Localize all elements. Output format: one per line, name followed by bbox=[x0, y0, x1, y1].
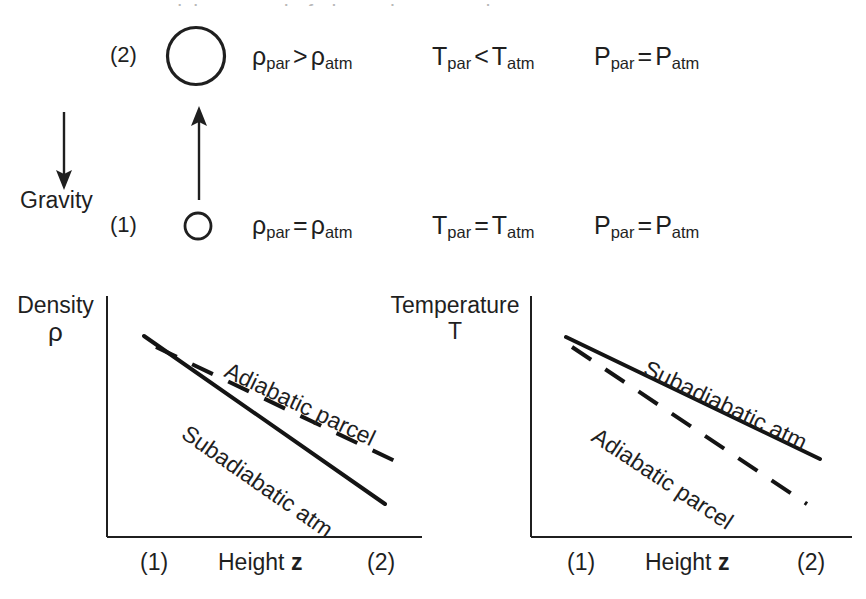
eq-operator: = bbox=[635, 42, 656, 70]
xlabel-symbol: z bbox=[291, 549, 303, 575]
ylabel-line-1: Temperature bbox=[385, 292, 525, 318]
xlabel-text: Height bbox=[218, 549, 284, 575]
small-circle-icon bbox=[181, 209, 215, 243]
state-2-label: (2) bbox=[110, 42, 137, 68]
density-chart-xtick-1: (1) bbox=[140, 549, 168, 576]
eq-operator: = bbox=[635, 211, 656, 239]
eq-operator: > bbox=[290, 42, 311, 70]
eq-rhs: T bbox=[492, 211, 507, 239]
eq-lhs: T bbox=[432, 42, 447, 70]
state-1-pressure-relation: Ppar=Patm bbox=[594, 211, 699, 242]
eq-rhs: P bbox=[655, 211, 672, 239]
eq-rhs-sub: atm bbox=[507, 54, 535, 72]
state-2-density-relation: ρpar>ρatm bbox=[252, 42, 352, 73]
eq-rhs: ρ bbox=[311, 211, 325, 239]
eq-rhs-sub: atm bbox=[507, 223, 535, 241]
label-adiabatic-parcel: Adiabatic parcel bbox=[587, 422, 738, 534]
density-chart-ylabel: Density ρ bbox=[8, 292, 103, 348]
ylabel-line-2: ρ bbox=[8, 318, 103, 348]
state-2-pressure-relation: Ppar=Patm bbox=[594, 42, 699, 73]
eq-lhs-sub: par bbox=[611, 223, 635, 241]
state-2-temperature-relation: Tpar<Tatm bbox=[432, 42, 535, 73]
figure-canvas: rising parcel of air, cools, expands (2)… bbox=[0, 0, 866, 599]
eq-rhs-sub: atm bbox=[672, 54, 700, 72]
eq-lhs-sub: par bbox=[447, 223, 471, 241]
density-chart-xtick-2: (2) bbox=[367, 549, 395, 576]
label-subadiabatic-atm: Subadiabatic atm bbox=[640, 355, 812, 455]
gravity-label: Gravity bbox=[20, 187, 93, 214]
state-1-label: (1) bbox=[110, 212, 137, 238]
eq-rhs: T bbox=[492, 42, 507, 70]
temperature-chart-ylabel: Temperature T bbox=[385, 292, 525, 345]
eq-operator: = bbox=[471, 211, 492, 239]
eq-lhs-sub: par bbox=[611, 54, 635, 72]
clipped-caption-remnant: rising parcel of air, cools, expands bbox=[170, 0, 790, 6]
eq-lhs-sub: par bbox=[447, 54, 471, 72]
eq-operator: = bbox=[290, 211, 311, 239]
eq-rhs-sub: atm bbox=[325, 54, 353, 72]
eq-lhs: P bbox=[594, 211, 611, 239]
temperature-chart-xtick-1: (1) bbox=[567, 549, 595, 576]
label-subadiabatic-atm: Subadiabatic atm bbox=[177, 420, 338, 543]
up-arrow-icon bbox=[182, 104, 216, 200]
ylabel-line-2: T bbox=[385, 318, 525, 344]
density-chart-xlabel: Height z bbox=[218, 549, 302, 576]
eq-lhs: ρ bbox=[252, 211, 266, 239]
eq-lhs: P bbox=[594, 42, 611, 70]
density-chart-plot: Adiabatic parcel Subadiabatic atm bbox=[100, 292, 430, 547]
down-arrow-icon bbox=[47, 112, 81, 192]
xlabel-symbol: z bbox=[718, 549, 730, 575]
state-1-temperature-relation: Tpar=Tatm bbox=[432, 211, 535, 242]
eq-lhs: T bbox=[432, 211, 447, 239]
eq-lhs-sub: par bbox=[266, 223, 290, 241]
ylabel-line-1: Density bbox=[8, 292, 103, 318]
temperature-chart-xtick-2: (2) bbox=[797, 549, 825, 576]
eq-rhs-sub: atm bbox=[672, 223, 700, 241]
xlabel-text: Height bbox=[645, 549, 711, 575]
eq-rhs-sub: atm bbox=[325, 223, 353, 241]
eq-rhs: ρ bbox=[311, 42, 325, 70]
eq-operator: < bbox=[471, 42, 492, 70]
temperature-chart-plot: Subadiabatic atm Adiabatic parcel bbox=[524, 292, 859, 547]
large-circle-icon bbox=[162, 22, 230, 90]
eq-lhs-sub: par bbox=[266, 54, 290, 72]
state-1-density-relation: ρpar=ρatm bbox=[252, 211, 352, 242]
eq-lhs: ρ bbox=[252, 42, 266, 70]
eq-rhs: P bbox=[655, 42, 672, 70]
temperature-chart-xlabel: Height z bbox=[645, 549, 729, 576]
